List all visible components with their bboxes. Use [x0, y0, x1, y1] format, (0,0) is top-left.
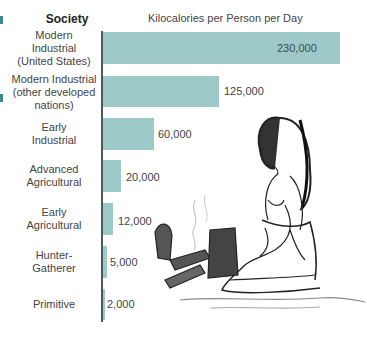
label-line: Agricultural: [26, 176, 81, 189]
label-line: (other developed: [13, 86, 96, 99]
value-label: 230,000: [277, 42, 317, 54]
edge-mark: [0, 94, 3, 102]
label-line: nations): [34, 99, 73, 112]
row-label: Modern Industrial (other developed natio…: [10, 73, 98, 111]
label-line: Agricultural: [26, 219, 81, 232]
bar-early-agricultural: [103, 203, 113, 235]
row-label: Early Agricultural: [10, 206, 98, 232]
row-label: Hunter- Gatherer: [10, 249, 98, 275]
row-label: Advanced Agricultural: [10, 163, 98, 189]
row-label: Primitive: [10, 297, 98, 311]
row-label: Modern Industrial (United States): [10, 29, 98, 67]
row-label: Early Industrial: [10, 121, 98, 147]
value-label: 5,000: [110, 256, 138, 268]
label-line: Industrial: [32, 134, 77, 147]
label-line: Early: [41, 121, 66, 134]
label-line: Gatherer: [32, 262, 75, 275]
bar-advanced-agricultural: [103, 160, 121, 192]
label-line: Modern: [35, 29, 72, 42]
bar-hunter-gatherer: [103, 246, 107, 278]
label-line: Modern Industrial: [12, 73, 97, 86]
bar-early-industrial: [103, 118, 154, 150]
label-line: Hunter-: [36, 249, 73, 262]
kcal-header: Kilocalories per Person per Day: [148, 12, 303, 24]
bar-primitive: [103, 289, 105, 320]
label-line: Industrial: [32, 42, 77, 55]
label-line: (United States): [17, 55, 90, 68]
kneeling-woman-by-fire-illustration: [150, 110, 367, 325]
label-line: Advanced: [30, 163, 79, 176]
label-line: Primitive: [33, 298, 75, 311]
bar-modern-industrial-other: [103, 76, 219, 107]
value-label: 125,000: [224, 85, 264, 97]
value-label: 12,000: [118, 215, 152, 227]
value-label: 2,000: [107, 298, 135, 310]
society-header: Society: [37, 12, 97, 26]
edge-mark: [0, 16, 3, 24]
label-line: Early: [41, 206, 66, 219]
